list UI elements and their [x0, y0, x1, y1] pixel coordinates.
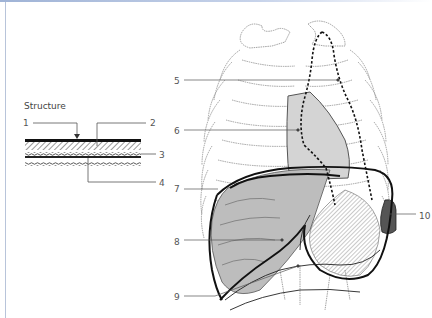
structure-layers — [25, 123, 156, 182]
diagram-canvas — [0, 0, 432, 318]
stomach-region — [309, 190, 380, 276]
